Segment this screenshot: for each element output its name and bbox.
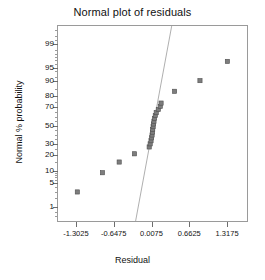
y-axis-tick-label: 5 [50, 179, 54, 187]
y-axis-minor-tick-mark [55, 50, 58, 51]
y-axis-minor-tick-mark [55, 180, 58, 181]
data-point-marker [132, 152, 136, 156]
plot-canvas [58, 26, 247, 221]
y-axis-minor-tick-mark [55, 60, 58, 61]
x-axis-tick-label: -0.6475 [101, 229, 126, 238]
y-axis-minor-tick-mark [55, 102, 58, 103]
y-axis-tick-label: 30 [45, 140, 54, 148]
x-axis-tick-mark [152, 222, 153, 227]
y-axis-title: Normal % probability [14, 52, 24, 192]
y-axis-minor-tick-mark [55, 192, 58, 193]
y-axis-minor-tick-mark [55, 77, 58, 78]
data-points [75, 59, 229, 194]
y-axis-minor-tick-mark [55, 130, 58, 131]
y-axis-tick-labels: 15102030507080909599 [28, 25, 54, 222]
y-axis-minor-tick-mark [55, 198, 58, 199]
y-axis-minor-tick-mark [55, 121, 58, 122]
x-axis-tick-mark [227, 222, 228, 227]
x-axis-tick-label: -1.3025 [63, 229, 88, 238]
x-axis-title: Residual [0, 255, 265, 265]
x-axis-tick-labels: -1.3025-0.64750.00750.66251.3175 [0, 229, 265, 241]
normal-probability-plot-figure: Normal plot of residuals 151020305070809… [0, 0, 265, 280]
y-axis-minor-tick-mark [55, 30, 58, 31]
y-axis-minor-tick-mark [55, 175, 58, 176]
data-point-marker [172, 89, 176, 93]
y-axis-minor-tick-mark [55, 212, 58, 213]
y-axis-tick-label: 20 [45, 151, 54, 159]
chart-title: Normal plot of residuals [0, 6, 265, 18]
data-point-marker [198, 79, 202, 83]
y-axis-minor-tick-mark [55, 139, 58, 140]
data-point-marker [100, 171, 104, 175]
y-axis-tick-label: 80 [45, 92, 54, 100]
data-point-marker [75, 190, 79, 194]
y-axis-tick-label: 95 [45, 64, 54, 72]
y-axis-tick-label: 70 [45, 103, 54, 111]
data-point-marker [159, 101, 163, 105]
y-axis-minor-tick-mark [55, 40, 58, 41]
y-axis-minor-tick-mark [55, 149, 58, 150]
y-axis-minor-tick-mark [55, 135, 58, 136]
x-axis-tick-label: 1.3175 [216, 229, 239, 238]
y-axis-minor-tick-mark [55, 187, 58, 188]
plot-area [57, 25, 248, 222]
y-axis-minor-tick-mark [55, 117, 58, 118]
y-axis-tick-label: 99 [45, 40, 54, 48]
x-axis-tick-marks [57, 222, 248, 228]
y-axis-tick-label: 50 [45, 122, 54, 130]
data-point-marker [117, 160, 121, 164]
y-axis-tick-label: 10 [45, 167, 54, 175]
y-axis-minor-tick-mark [55, 173, 58, 174]
y-axis-minor-tick-mark [55, 162, 58, 163]
y-axis-minor-tick-mark [55, 36, 58, 37]
y-axis-tick-label: 90 [45, 77, 54, 85]
x-axis-tick-mark [189, 222, 190, 227]
y-axis-minor-tick-mark [55, 57, 58, 58]
y-axis-minor-tick-mark [55, 177, 58, 178]
y-axis-minor-tick-mark [55, 216, 58, 217]
data-point-marker [225, 59, 229, 63]
y-axis-tick-label: 1 [50, 203, 54, 211]
y-axis-minor-tick-mark [55, 89, 58, 90]
x-axis-tick-mark [76, 222, 77, 227]
y-axis-minor-tick-mark [55, 112, 58, 113]
y-axis-minor-tick-mark [55, 71, 58, 72]
x-axis-tick-label: 0.6625 [178, 229, 201, 238]
y-axis-minor-tick-mark [55, 54, 58, 55]
x-axis-tick-mark [114, 222, 115, 227]
x-axis-tick-label: 0.0075 [140, 229, 163, 238]
y-axis-minor-tick-mark [55, 64, 58, 65]
